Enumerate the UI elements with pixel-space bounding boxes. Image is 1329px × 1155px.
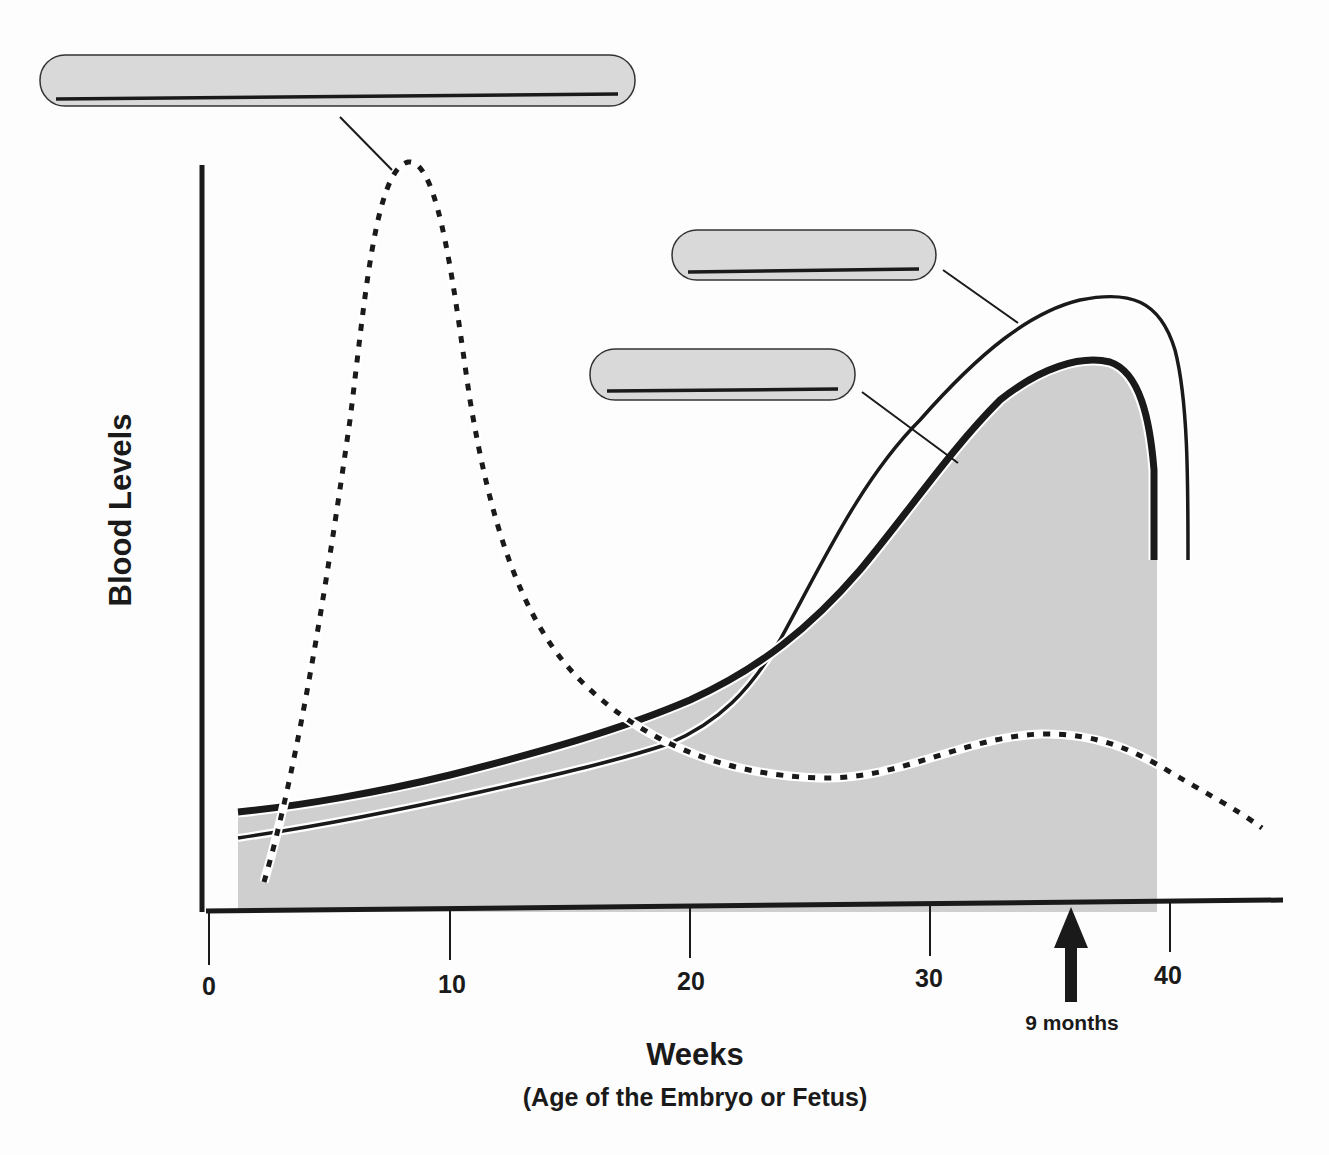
leader-line-box-1 [340, 117, 392, 170]
label-box-2[interactable] [672, 230, 936, 280]
answer-blank-3[interactable] [607, 389, 838, 391]
leader-line-box-3 [862, 392, 958, 463]
chart-canvas: 0 10 20 30 40 9 months Weeks (Age of the… [0, 0, 1329, 1155]
y-axis-title: Blood Levels [103, 414, 138, 607]
tick-label-10: 10 [438, 970, 466, 998]
x-axis-title: Weeks [646, 1037, 744, 1072]
x-axis-subtitle: (Age of the Embryo or Fetus) [523, 1083, 867, 1111]
label-box-3[interactable] [590, 349, 855, 400]
tick-label-0: 0 [202, 972, 216, 1000]
tick-label-30: 30 [915, 964, 943, 992]
label-box-1[interactable] [40, 55, 635, 106]
nine-months-label: 9 months [1025, 1011, 1118, 1034]
shaded-area [238, 360, 1157, 912]
tick-label-20: 20 [677, 967, 705, 995]
leader-line-box-2 [943, 270, 1018, 323]
nine-months-arrow-icon [1054, 907, 1088, 1002]
tick-label-40: 40 [1154, 961, 1182, 989]
